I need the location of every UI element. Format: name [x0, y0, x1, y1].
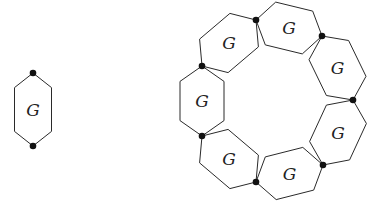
block-label: G — [331, 123, 345, 143]
ring-block: G — [309, 36, 366, 100]
single-block: G — [15, 73, 52, 146]
diagram-svg: GGGGGGGG — [0, 0, 379, 205]
vertex-dot — [199, 133, 206, 140]
block-label: G — [331, 58, 345, 78]
vertex-dot — [199, 63, 206, 70]
vertex-dot — [253, 17, 260, 24]
vertex-dot — [319, 33, 326, 40]
vertex-dot — [30, 70, 37, 77]
ring-block: G — [200, 129, 259, 188]
block-label: G — [222, 33, 236, 53]
ring-block: G — [256, 2, 322, 54]
block-label: G — [195, 91, 209, 111]
ring-block: G — [200, 13, 259, 72]
vertex-dot — [320, 162, 327, 169]
block-label: G — [283, 164, 297, 184]
block-label: G — [26, 100, 40, 120]
vertex-dot — [253, 179, 260, 186]
block-label: G — [222, 149, 236, 169]
block-label: G — [282, 18, 296, 38]
vertex-dot — [30, 143, 37, 150]
vertex-dot — [350, 97, 357, 104]
ring-block: G — [310, 100, 367, 165]
ring-block: G — [180, 66, 224, 136]
diagram-canvas: GGGGGGGG — [0, 0, 379, 205]
ring-block: G — [256, 147, 323, 199]
